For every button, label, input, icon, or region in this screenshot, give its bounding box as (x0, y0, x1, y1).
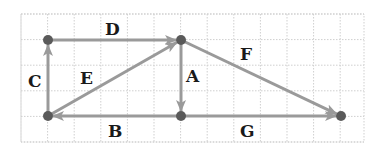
point-p2 (43, 35, 53, 45)
vector-label-f: F (240, 44, 252, 64)
vector-label-g: G (240, 121, 255, 141)
vector-diagram: ABCDEFG (0, 0, 382, 155)
vector-label-a: A (185, 66, 200, 86)
point-p4 (176, 111, 186, 121)
vector-label-b: B (108, 121, 122, 141)
vector-e-arrow (48, 42, 177, 116)
point-p3 (176, 35, 186, 45)
vector-label-c: C (28, 71, 42, 91)
point-p5 (336, 111, 346, 121)
point-p1 (43, 111, 53, 121)
vector-label-e: E (80, 68, 93, 88)
labels: ABCDEFG (28, 19, 255, 141)
vector-label-d: D (105, 19, 120, 39)
